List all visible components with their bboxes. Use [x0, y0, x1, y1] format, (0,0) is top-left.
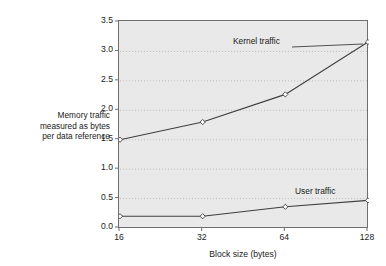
- series-line-kernel-traffic: [120, 42, 368, 140]
- x-tick-label: 128: [347, 233, 386, 242]
- data-point-marker: [283, 204, 288, 209]
- y-tick-label: 0.0: [85, 222, 113, 231]
- y-tick-label: 2.0: [85, 104, 113, 113]
- plot-canvas: [119, 21, 369, 229]
- series-label-kernel-traffic: Kernel traffic: [233, 36, 280, 46]
- x-tick-label: 32: [182, 233, 222, 242]
- x-tick-label: 64: [264, 233, 304, 242]
- data-point-marker: [200, 214, 205, 219]
- y-tick-label: 1.5: [85, 134, 113, 143]
- y-tick-label: 0.5: [85, 193, 113, 202]
- series-label-user-traffic: User traffic: [295, 186, 335, 196]
- y-tick-label: 1.0: [85, 163, 113, 172]
- chart-figure: Memory traffic measured as bytes per dat…: [0, 0, 386, 266]
- x-axis-title: Block size (bytes): [118, 249, 368, 259]
- x-tick-label: 16: [99, 233, 139, 242]
- y-tick-label: 3.5: [85, 16, 113, 25]
- data-point-marker: [283, 92, 288, 97]
- y-axis-title-line-2: measured as bytes: [10, 121, 110, 132]
- data-point-marker: [200, 119, 205, 124]
- data-point-marker: [119, 137, 123, 142]
- data-point-marker: [365, 198, 369, 203]
- gridlines: [120, 51, 368, 198]
- plot-area: [118, 20, 368, 228]
- data-point-marker: [119, 214, 123, 219]
- y-tick-label: 2.5: [85, 75, 113, 84]
- y-tick-label: 3.0: [85, 45, 113, 54]
- series-line-user-traffic: [120, 200, 368, 216]
